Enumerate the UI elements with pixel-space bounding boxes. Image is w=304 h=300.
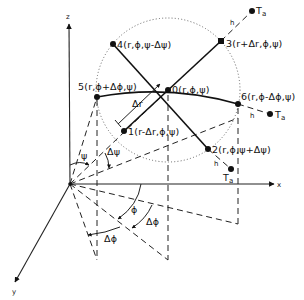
ta-top-label: Ta xyxy=(255,5,267,18)
point-1-label: 1(r-Δr,ϕ,ψ) xyxy=(128,126,179,137)
point-6-label: 6(r,ϕ-Δϕ,ψ) xyxy=(241,91,295,102)
ta-bottom-label: Ta xyxy=(222,172,234,185)
y-axis-label: y xyxy=(12,288,16,296)
delta-phi-label-left: Δϕ xyxy=(104,233,117,244)
z-axis xyxy=(69,24,70,184)
point-5-label: 5(r,ϕ+Δϕ,ψ) xyxy=(78,81,137,92)
point-2 xyxy=(205,146,211,152)
phi-label: ϕ xyxy=(131,204,137,215)
delta-phi-label-right: Δϕ xyxy=(146,216,159,227)
h-right-label: h xyxy=(250,112,254,120)
point-4-label: 4(r,ϕ,ψ-Δψ) xyxy=(117,39,171,50)
h-bottom-label: h xyxy=(214,160,218,168)
point-4 xyxy=(110,41,116,47)
point-0-label: 0(r,ϕ,ψ) xyxy=(172,84,210,95)
ambient-point-top xyxy=(249,8,255,14)
ambient-point-right xyxy=(267,111,273,117)
delta-psi-label: Δψ xyxy=(107,146,120,157)
delta-r-label: Δr xyxy=(132,98,143,109)
y-axis xyxy=(15,184,70,282)
point-1 xyxy=(121,128,127,134)
point-3 xyxy=(218,38,224,44)
ta-right-label: Ta xyxy=(274,109,286,122)
point-0 xyxy=(165,87,171,93)
point-3-label: 3(r+Δr,ϕ,ψ) xyxy=(226,38,283,49)
x-axis-label: x xyxy=(277,181,281,189)
psi-label: ψ xyxy=(81,150,87,161)
z-axis-label: z xyxy=(66,13,70,21)
spherical-stencil-diagram: z x y Δr ψ Δψ ϕ Δϕ Δϕ xyxy=(0,0,304,300)
point-2-label: 2(r,ϕ,ψ+Δψ) xyxy=(212,144,271,155)
point-5 xyxy=(94,94,100,100)
h-top-label: h xyxy=(230,19,234,27)
origin-point xyxy=(68,182,72,186)
